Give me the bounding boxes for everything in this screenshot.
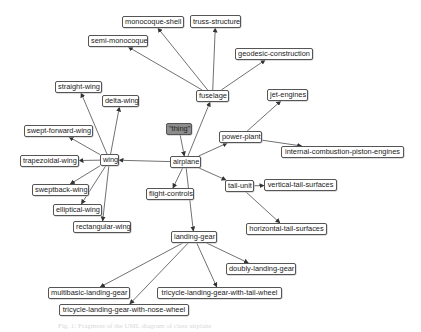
node-thing[interactable]: "thing" xyxy=(166,123,192,135)
node-straight-wing[interactable]: straight-wing xyxy=(55,81,102,93)
node-trapezoidal-wing[interactable]: trapezoidal-wing xyxy=(20,155,79,167)
node-tail-unit[interactable]: tail-unit xyxy=(225,180,254,192)
edge-airplane-to-flight-controls xyxy=(173,168,183,188)
node-vertical-tail-surfaces[interactable]: vertical-tail-surfaces xyxy=(264,179,337,191)
edge-airplane-to-power-plant xyxy=(199,143,228,156)
node-doubly-landing-gear[interactable]: doubly-landing-gear xyxy=(226,263,296,275)
node-delta-wing[interactable]: delta-wing xyxy=(102,95,139,107)
node-wing[interactable]: wing xyxy=(100,154,119,166)
node-geodesic-construction[interactable]: geodesic-construction xyxy=(235,48,313,60)
node-swept-forward-wing[interactable]: swept-forward-wing xyxy=(24,125,93,137)
node-monocoque-shell[interactable]: monocoque-shell xyxy=(122,16,184,28)
node-multibasic-landing-gear[interactable]: multibasic-landing-gear xyxy=(48,287,130,299)
node-tricycle-landing-gear-with-tail-wheel[interactable]: tricycle-landing-gear-with-tail-wheel xyxy=(157,287,282,299)
edge-tail-unit-to-horizontal-tail-surfaces xyxy=(246,192,280,223)
edge-fuselage-to-truss-structure xyxy=(213,28,215,90)
edge-airplane-to-wing xyxy=(119,160,170,161)
node-horizontal-tail-surfaces[interactable]: horizontal-tail-surfaces xyxy=(246,223,327,235)
node-semi-monocoque[interactable]: semi-monocoque xyxy=(88,35,148,47)
node-sweptback-wing[interactable]: sweptback-wing xyxy=(32,184,89,196)
node-truss-structure[interactable]: truss-structure xyxy=(190,15,241,28)
edge-landing-gear-to-tricycle-landing-gear-with-tail-wheel xyxy=(197,243,217,287)
node-tricycle-landing-gear-with-nose-wheel[interactable]: tricycle-landing-gear-with-nose-wheel xyxy=(59,304,189,316)
edge-fuselage-to-monocoque-shell xyxy=(158,28,208,90)
node-landing-gear[interactable]: landing-gear xyxy=(171,231,217,243)
edge-landing-gear-to-doubly-landing-gear xyxy=(207,243,249,263)
node-power-plant[interactable]: power-plant xyxy=(219,131,262,143)
edge-wing-to-rectangular-wing xyxy=(103,166,109,221)
node-jet-engines[interactable]: jet-engines xyxy=(267,89,308,101)
node-airplane[interactable]: airplane xyxy=(170,156,201,168)
node-flight-controls[interactable]: flight-controls xyxy=(146,188,194,200)
node-elliptical-wing[interactable]: elliptical-wing xyxy=(53,204,102,216)
edge-wing-to-swept-forward-wing xyxy=(69,137,100,155)
edge-fuselage-to-geodesic-construction xyxy=(221,60,265,90)
edge-thing-to-airplane xyxy=(180,135,184,156)
edge-fuselage-to-semi-monocoque xyxy=(128,47,202,90)
node-fuselage[interactable]: fuselage xyxy=(196,90,229,102)
figure-caption: Fig. 1: Fragment of the UML diagram of c… xyxy=(58,322,212,330)
edge-power-plant-to-jet-engines xyxy=(247,101,281,131)
edge-landing-gear-to-multibasic-landing-gear xyxy=(100,243,183,287)
node-rectangular-wing[interactable]: rectangular-wing xyxy=(73,221,131,233)
edge-airplane-to-tail-unit xyxy=(199,168,226,180)
edge-wing-to-delta-wing xyxy=(111,107,120,154)
node-internal-combustion-piston-engines[interactable]: internal-combustion-piston-engines xyxy=(281,146,404,158)
